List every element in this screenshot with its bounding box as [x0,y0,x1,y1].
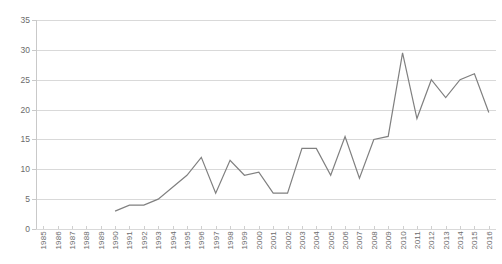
x-axis-tick [86,226,87,229]
series-line [36,20,496,229]
x-axis-label: 1999 [240,231,249,250]
y-axis-label: 5 [25,194,30,204]
x-axis-label: 1990 [111,231,120,250]
x-axis-label: 1985 [39,231,48,250]
x-axis-tick [158,226,159,229]
x-axis-tick [259,226,260,229]
y-axis: 05101520253035 [0,0,36,229]
x-axis-label: 2005 [327,231,336,250]
x-axis-label: 2015 [470,231,479,250]
x-axis-tick [201,226,202,229]
chart-title [150,0,400,9]
line-chart: 05101520253035 1985198619871988198919901… [0,0,502,264]
x-axis-label: 2004 [312,231,321,250]
x-axis-tick [187,226,188,229]
x-axis-label: 1997 [212,231,221,250]
x-axis-tick [431,226,432,229]
plot-area [36,20,496,229]
x-axis-label: 2003 [298,231,307,250]
x-axis-tick [173,226,174,229]
data-line [115,53,489,211]
y-axis-label: 20 [21,105,30,115]
x-axis-tick [489,226,490,229]
y-axis-label: 0 [25,224,30,234]
x-axis-tick [230,226,231,229]
x-axis-label: 2000 [255,231,264,250]
x-axis-tick [403,226,404,229]
x-axis-label: 2010 [399,231,408,250]
x-axis-label: 1998 [226,231,235,250]
x-axis-label: 1991 [125,231,134,250]
x-axis-label: 2007 [355,231,364,250]
x-axis-tick [216,226,217,229]
x-axis-tick [129,226,130,229]
x-axis-label: 1989 [97,231,106,250]
y-axis-label: 25 [21,75,30,85]
x-axis-tick [345,226,346,229]
x-axis-tick [460,226,461,229]
x-axis-tick [474,226,475,229]
x-axis-tick [302,226,303,229]
x-axis-label: 1988 [82,231,91,250]
x-axis-label: 2016 [485,231,494,250]
x-axis-label: 1987 [68,231,77,250]
x-axis-tick [388,226,389,229]
x-axis-label: 1993 [154,231,163,250]
x-axis-tick [244,226,245,229]
x-axis-tick [101,226,102,229]
x-axis-tick [359,226,360,229]
x-axis-tick [58,226,59,229]
x-axis-label: 1986 [54,231,63,250]
x-axis-label: 2002 [284,231,293,250]
y-axis-label: 10 [21,164,30,174]
x-axis-label: 1995 [183,231,192,250]
x-axis-label: 2009 [384,231,393,250]
x-axis-label: 1996 [197,231,206,250]
x-axis-label: 2008 [370,231,379,250]
y-axis-label: 15 [21,134,30,144]
x-axis-label: 2011 [413,231,422,249]
x-axis-tick [288,226,289,229]
y-axis-label: 30 [21,45,30,55]
x-axis-tick [72,226,73,229]
x-axis-label: 2014 [456,231,465,250]
y-axis-label: 35 [21,15,30,25]
x-axis-label: 2001 [269,231,278,250]
x-axis: 1985198619871988198919901991199219931994… [36,229,496,264]
x-axis-tick [446,226,447,229]
x-axis-label: 2013 [442,231,451,250]
x-axis-tick [115,226,116,229]
x-axis-tick [144,226,145,229]
x-axis-tick [331,226,332,229]
x-axis-label: 1992 [140,231,149,250]
x-axis-label: 2006 [341,231,350,250]
x-axis-label: 2012 [427,231,436,250]
x-axis-tick [43,226,44,229]
x-axis-tick [374,226,375,229]
x-axis-label: 1994 [169,231,178,250]
x-axis-tick [316,226,317,229]
x-axis-tick [273,226,274,229]
x-axis-tick [417,226,418,229]
